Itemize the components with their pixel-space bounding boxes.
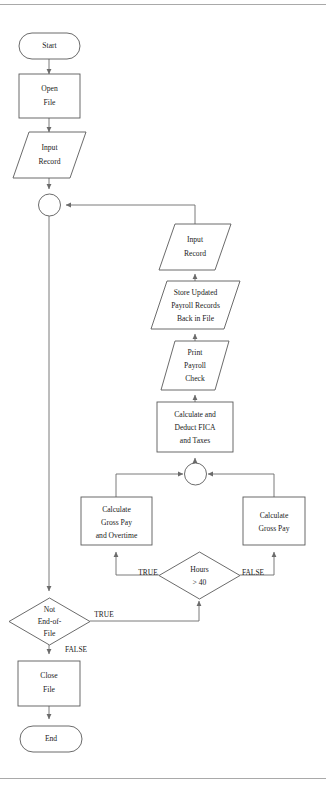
edge-gross-to-junction-2 [208, 474, 274, 497]
eof-decision-label-line3: File [44, 629, 56, 638]
eof-true-edge-label: TRUE [94, 610, 114, 619]
junction-1-connector-shape [39, 194, 61, 216]
calculate-gross-process-shape [243, 497, 305, 545]
input-record-1-io-shape [13, 132, 86, 178]
input-record-1-label-line1: Input [41, 143, 58, 152]
store-records-label-line3: Back in File [177, 314, 215, 323]
store-records-label-line1: Store Updated [174, 288, 218, 297]
eof-decision-label-line2: End-of- [38, 617, 62, 626]
print-check-label-line2: Payroll [184, 361, 206, 370]
input-record-2-io-shape [159, 224, 231, 270]
hours-decision-label-line2: > 40 [193, 578, 207, 587]
node-store-records[interactable]: Store Updated Payroll Records Back in Fi… [151, 281, 240, 329]
flowchart-page: Start Open File Input Record Input Recor… [0, 0, 326, 787]
node-calculate-fica[interactable]: Calculate and Deduct FICA and Taxes [157, 402, 233, 452]
node-end[interactable]: End [20, 726, 82, 752]
fica-label-line3: and Taxes [180, 436, 210, 445]
node-close-file[interactable]: Close File [18, 661, 80, 706]
hours-true-edge-label: TRUE [138, 568, 158, 577]
node-start[interactable]: Start [19, 33, 80, 59]
gross-overtime-label-line3: and Overtime [96, 531, 138, 540]
fica-label-line1: Calculate and [174, 410, 216, 419]
node-calculate-gross-overtime[interactable]: Calculate Gross Pay and Overtime [81, 497, 152, 545]
close-file-process-shape [18, 661, 80, 706]
input-record-2-label-line2: Record [184, 249, 206, 258]
print-check-label-line3: Check [185, 374, 205, 383]
hours-decision-shape [159, 552, 240, 599]
input-record-1-label-line2: Record [39, 157, 61, 166]
hours-decision-label-line1: Hours [190, 565, 209, 574]
store-records-label-line2: Payroll Records [171, 301, 220, 310]
eof-false-edge-label: FALSE [65, 645, 88, 654]
start-label: Start [42, 41, 57, 50]
gross-label-line2: Gross Pay [258, 524, 289, 533]
junction-2-connector-shape [185, 463, 207, 485]
print-check-label-line1: Print [188, 348, 204, 357]
open-file-label-line1: Open [41, 84, 58, 93]
close-file-label-line1: Close [40, 671, 58, 680]
open-file-label-line2: File [44, 98, 56, 107]
gross-label-line1: Calculate [260, 511, 289, 520]
gross-overtime-label-line2: Gross Pay [101, 518, 132, 527]
edge-gross-overtime-to-junction-2 [116, 474, 183, 497]
node-input-record-1[interactable]: Input Record [13, 132, 86, 178]
node-junction-2[interactable] [185, 463, 207, 485]
fica-label-line2: Deduct FICA [174, 423, 216, 432]
node-eof-decision[interactable]: Not End-of- File [9, 598, 90, 645]
open-file-process-shape [19, 74, 80, 118]
edge-input-record-2-to-junction-1 [66, 205, 195, 224]
eof-decision-label-line1: Not [44, 605, 56, 614]
node-calculate-gross[interactable]: Calculate Gross Pay [243, 497, 305, 545]
node-junction-1[interactable] [39, 194, 61, 216]
node-print-payroll-check[interactable]: Print Payroll Check [161, 341, 229, 390]
input-record-2-label-line1: Input [187, 235, 204, 244]
gross-overtime-label-line1: Calculate [102, 505, 131, 514]
close-file-label-line2: File [43, 685, 55, 694]
hours-false-edge-label: FALSE [242, 568, 265, 577]
flowchart-canvas: Start Open File Input Record Input Recor… [0, 0, 326, 787]
node-input-record-2[interactable]: Input Record [159, 224, 231, 270]
node-open-file[interactable]: Open File [19, 74, 80, 118]
end-label: End [45, 734, 57, 743]
node-hours-decision[interactable]: Hours > 40 [159, 552, 240, 599]
